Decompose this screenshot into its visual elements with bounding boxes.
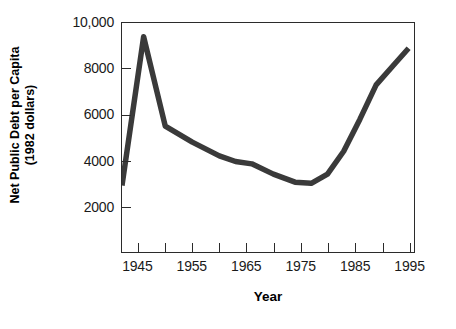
x-axis-tick [219,243,220,252]
y-axis-title-line-2: (1982 dollars) [23,47,38,204]
y-axis-tick [122,161,131,162]
x-axis-tick [138,243,139,252]
y-axis-tick-label: 4000 [84,153,114,169]
x-axis-tick [246,243,247,252]
y-axis-tick-label: 10,000 [72,14,114,30]
x-axis-tick [328,243,329,252]
y-axis-tick-label: 2000 [84,199,114,215]
x-axis-tick [355,243,356,252]
x-axis-tick-label: 1955 [177,258,207,274]
x-axis-tick [165,243,166,252]
x-axis-tick-label: 1985 [340,258,370,274]
y-axis-tick [122,68,131,69]
y-axis-title-line-1: Net Public Debt per Capita [8,47,23,204]
data-line-svg [122,23,414,252]
x-axis-tick [192,243,193,252]
x-axis-tick-label: 1965 [231,258,261,274]
y-axis-tick-label: 6000 [84,106,114,122]
x-axis-tick [383,243,384,252]
x-axis-tick [301,243,302,252]
y-axis-tick [122,115,131,116]
x-axis-tick-label: 1975 [285,258,315,274]
data-line-series-0 [122,37,409,186]
y-axis-tick [122,207,131,208]
x-axis-title: Year [121,289,415,304]
x-axis-tick-label: 1945 [122,258,152,274]
plot-area [121,22,415,253]
chart-figure: Net Public Debt per Capita (1982 dollars… [0,0,456,329]
x-axis-tick [274,243,275,252]
x-axis-tick [410,243,411,252]
x-axis-tick-labels: 194519551965197519851995 [0,258,456,282]
y-axis-tick-labels: 10,0008000600040002000 [40,0,118,260]
y-axis-tick-label: 8000 [84,60,114,76]
x-axis-tick-label: 1995 [394,258,424,274]
